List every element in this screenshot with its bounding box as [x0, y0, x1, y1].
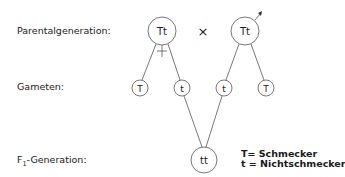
line-gamete-3-offspring	[206, 96, 222, 147]
line-father-gamete-4	[251, 44, 264, 80]
gamete-1: T	[136, 84, 143, 94]
mother-genotype: Tt	[156, 26, 167, 37]
cross-symbol: ×	[198, 24, 209, 39]
line-mother-gamete-1	[142, 44, 156, 80]
legend-recessive: t = Nichtschmecker	[241, 159, 345, 169]
female-symbol-icon	[157, 45, 167, 57]
line-father-gamete-3	[226, 44, 239, 80]
father-genotype: Tt	[239, 26, 250, 37]
gamete-2: t	[180, 84, 184, 94]
gamete-4: T	[262, 84, 269, 94]
gamete-3: t	[222, 84, 226, 94]
line-gamete-2-offspring	[184, 96, 202, 147]
offspring-genotype: tt	[200, 155, 208, 166]
line-mother-gamete-2	[168, 44, 180, 80]
